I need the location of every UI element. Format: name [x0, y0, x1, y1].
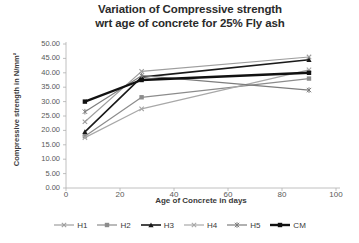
- legend-item-h4[interactable]: H4: [183, 220, 217, 230]
- legend-label-h5: H5: [250, 221, 260, 230]
- legend-label-h3: H3: [164, 221, 174, 230]
- chart-container: Variation of Compressive strength wrt ag…: [0, 0, 359, 243]
- data-point-marker: [83, 99, 87, 103]
- data-point-marker: [307, 71, 311, 75]
- legend-item-h5[interactable]: H5: [226, 220, 260, 230]
- legend-item-h3[interactable]: H3: [140, 220, 174, 230]
- legend-label-h1: H1: [77, 221, 87, 230]
- legend-label-cm: CM: [293, 221, 305, 230]
- series-h2: [83, 76, 311, 138]
- legend-swatch-cm: [269, 220, 291, 230]
- legend-swatch-h2: [96, 220, 118, 230]
- legend-item-h2[interactable]: H2: [96, 220, 130, 230]
- data-point-marker: [139, 78, 143, 82]
- legend-label-h2: H2: [120, 221, 130, 230]
- legend-swatch-h4: [183, 220, 205, 230]
- legend-swatch-h5: [226, 220, 248, 230]
- chart-legend: H1H2H3H4H5CM: [0, 220, 359, 230]
- legend-label-h4: H4: [207, 221, 217, 230]
- legend-item-h1[interactable]: H1: [53, 220, 87, 230]
- data-point-marker: [105, 223, 109, 227]
- legend-item-cm[interactable]: CM: [269, 220, 305, 230]
- plot-area: [0, 0, 359, 243]
- data-point-marker: [139, 95, 143, 99]
- series-line-h5: [85, 76, 309, 112]
- data-point-marker: [278, 223, 282, 227]
- legend-swatch-h3: [140, 220, 162, 230]
- data-point-marker: [307, 76, 311, 80]
- legend-swatch-h1: [53, 220, 75, 230]
